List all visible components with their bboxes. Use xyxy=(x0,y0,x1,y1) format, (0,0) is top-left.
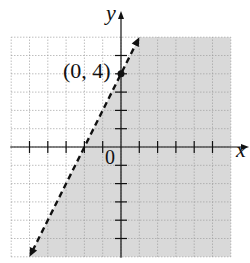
point-0-4 xyxy=(118,70,125,77)
inequality-graph xyxy=(0,0,250,263)
x-axis-label: x xyxy=(236,137,246,163)
point-label: (0, 4) xyxy=(63,58,111,84)
point-marker xyxy=(118,70,125,77)
y-axis-label: y xyxy=(106,0,116,26)
origin-label: 0 xyxy=(105,146,115,169)
y-axis-arrow-icon xyxy=(118,11,124,19)
